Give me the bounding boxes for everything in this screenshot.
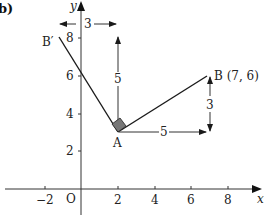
x-axis-label: x	[257, 192, 264, 206]
dimension-label: 5	[114, 72, 122, 86]
point-a-label: A	[112, 136, 122, 150]
y-axis-label: y	[69, 0, 77, 13]
point-b-prime-label: B′	[42, 35, 54, 49]
x-tick-label: −2	[36, 193, 54, 207]
x-tick-label: 6	[187, 193, 195, 207]
x-tick-label: 2	[114, 193, 122, 207]
right-angle-marker	[112, 118, 126, 132]
coordinate-diagram: b) x −2 2 4 6 8 y 8 6 4 2 O 3	[0, 0, 264, 218]
dimension-horizontal-3: 3	[60, 17, 116, 31]
x-axis: x −2 2 4 6 8	[5, 185, 264, 207]
dimension-label: 3	[206, 98, 214, 112]
y-tick-label: 2	[66, 144, 74, 158]
point-b-label: B (7, 6)	[214, 69, 259, 83]
x-tick-label: 8	[224, 193, 232, 207]
segment-a-b	[118, 76, 207, 132]
y-tick-label: 8	[66, 31, 74, 45]
y-axis: y 8 6 4 2 O	[66, 0, 85, 215]
dimension-vertical-5: 5	[113, 37, 123, 124]
dimension-label: 3	[84, 17, 92, 31]
y-axis-arrow-icon	[77, 1, 85, 11]
dimension-vertical-3: 3	[206, 77, 214, 131]
dimension-horizontal-5: 5	[119, 125, 206, 139]
origin-label: O	[66, 192, 76, 206]
dimension-label: 5	[160, 125, 168, 139]
x-tick-label: 4	[151, 193, 159, 207]
y-tick-label: 6	[66, 69, 74, 83]
y-tick-label: 4	[66, 107, 74, 121]
part-label: b)	[0, 1, 13, 16]
